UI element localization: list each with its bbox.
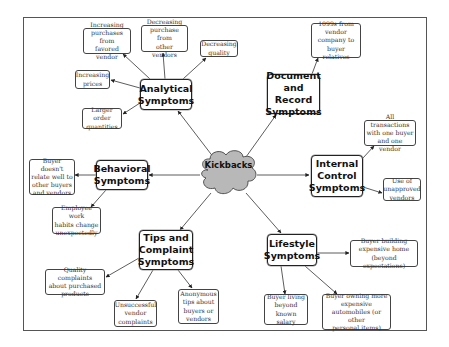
category-label: Behavioral Symptoms <box>93 163 150 187</box>
leaf-label: Increasing prices <box>76 71 109 87</box>
leaf-label: Anonymous tips about buyers or vendors <box>180 290 216 322</box>
leaf-all-transactions: All transactions with one buyer and one … <box>364 120 416 146</box>
leaf-buyer-living: Buyer living beyond known salary <box>264 294 308 325</box>
leaf-label: Buyer living beyond known salary <box>266 293 306 325</box>
leaf-quality-complaints: Quality complaints about purchased produ… <box>45 269 105 295</box>
category-tips-complaint-symptoms: Tips and Complaint Symptoms <box>139 230 193 270</box>
leaf-buyer-automobiles: Buyer owning more expensive automobiles … <box>322 294 391 330</box>
category-label: Internal Control Symptoms <box>309 158 365 194</box>
leaf-label: Use of unapproved vendors <box>383 177 420 201</box>
leaf-label: Employee work habits change unexpectedly <box>54 204 99 236</box>
category-label: Tips and Complaint Symptoms <box>138 232 194 268</box>
leaf-decreasing-quality: Decreasing quality <box>200 40 238 57</box>
leaf-increasing-prices: Increasing prices <box>75 70 110 89</box>
leaf-label: All transactions with one buyer and one … <box>366 113 414 153</box>
leaf-label: Increasing purchases from favored vendor <box>85 21 129 61</box>
leaf-anonymous-tips: Anonymous tips about buyers or vendors <box>178 289 219 324</box>
leaf-buyer-doesnt-relate: Buyer doesn't relate well to other buyer… <box>29 159 75 195</box>
leaf-decreasing-purchase: Decreasing purchase from other vendors <box>141 25 188 52</box>
leaf-label: Decreasing quality <box>201 40 237 56</box>
category-analytical-symptoms: Analytical Symptoms <box>140 79 192 110</box>
center-node-kickbacks: Kickbacks <box>200 160 257 170</box>
leaf-unapproved-vendors: Use of unapproved vendors <box>383 178 421 201</box>
category-label: Document and Record Symptoms <box>265 70 321 118</box>
category-document-record-symptoms: Document and Record Symptoms <box>267 74 320 114</box>
leaf-label: Decreasing purchase from other vendors <box>143 18 186 58</box>
leaf-label: Buyer building expensive home (beyond ex… <box>352 237 416 269</box>
category-behavioral-symptoms: Behavioral Symptoms <box>96 160 148 190</box>
leaf-unsuccessful-complaints: Unsuccessful vendor complaints <box>114 300 157 327</box>
leaf-label: 1099s from vendor company to buyer relat… <box>313 20 359 60</box>
leaf-buyer-home: Buyer building expensive home (beyond ex… <box>350 240 418 267</box>
leaf-increasing-purchases: Increasing purchases from favored vendor <box>83 28 131 54</box>
leaf-label: Quality complaints about purchased produ… <box>47 266 103 298</box>
category-internal-control-symptoms: Internal Control Symptoms <box>311 155 363 197</box>
leaf-label: Unsuccessful vendor complaints <box>115 301 157 325</box>
leaf-label: Buyer owning more expensive automobiles … <box>324 292 389 332</box>
leaf-label: Larger order quantities <box>84 106 120 130</box>
category-label: Analytical Symptoms <box>138 83 194 107</box>
leaf-1099s: 1099s from vendor company to buyer relat… <box>311 23 361 58</box>
leaf-larger-orders: Larger order quantities <box>82 108 122 129</box>
kickbacks-cloud-icon <box>198 148 260 198</box>
category-lifestyle-symptoms: Lifestyle Symptoms <box>267 234 317 266</box>
category-label: Lifestyle Symptoms <box>264 238 320 262</box>
leaf-label: Buyer doesn't relate well to other buyer… <box>31 157 73 197</box>
leaf-work-habits: Employee work habits change unexpectedly <box>52 207 101 234</box>
